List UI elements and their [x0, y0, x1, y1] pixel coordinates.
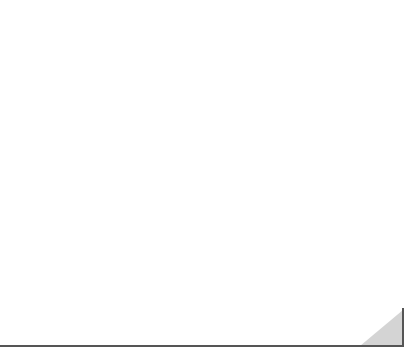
- coordinate-grid: [0, 0, 407, 359]
- page-corner-fold: [360, 310, 403, 346]
